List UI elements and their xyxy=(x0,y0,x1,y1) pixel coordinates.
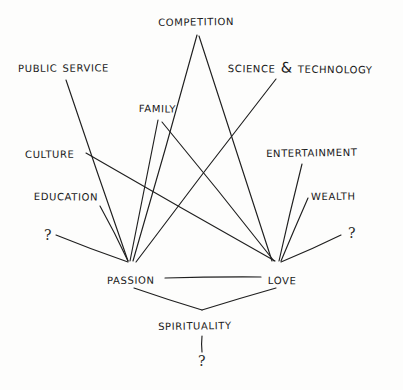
node-entertainment[interactable]: Entertainment xyxy=(266,144,358,160)
edge-culture-to-love xyxy=(86,153,275,261)
edge-lines xyxy=(56,35,341,352)
edge-education-to-passion xyxy=(100,206,128,261)
node-wealth[interactable]: Wealth xyxy=(311,188,356,203)
edge-wealth-to-love xyxy=(281,198,308,261)
node-family[interactable]: Family xyxy=(139,100,176,115)
edge-entertainment-to-love xyxy=(279,164,302,261)
edge-passion-to-spirituality xyxy=(134,288,202,310)
node-competition[interactable]: Competition xyxy=(158,13,234,29)
node-public-service[interactable]: Public Service xyxy=(18,59,109,74)
node-love[interactable]: Love xyxy=(268,272,297,287)
edge-love-to-spirituality xyxy=(202,288,276,310)
unknown-marker-bottom[interactable]: ? xyxy=(198,354,206,368)
edge-passion-to-love xyxy=(165,277,261,278)
diagram-canvas: Competition Public Service Science & Tec… xyxy=(0,0,403,390)
edge-public-service-to-passion xyxy=(66,80,128,261)
unknown-marker-left[interactable]: ? xyxy=(44,228,52,242)
node-culture[interactable]: Culture xyxy=(25,146,74,161)
node-education[interactable]: Education xyxy=(34,188,98,203)
node-spirituality[interactable]: Spirituality xyxy=(158,317,232,333)
edge-family-to-love xyxy=(162,122,274,261)
node-passion[interactable]: Passion xyxy=(107,272,155,287)
unknown-marker-right[interactable]: ? xyxy=(348,226,356,240)
edge-competition-to-passion xyxy=(133,35,197,261)
node-science-technology[interactable]: Science & Technology xyxy=(228,60,373,76)
